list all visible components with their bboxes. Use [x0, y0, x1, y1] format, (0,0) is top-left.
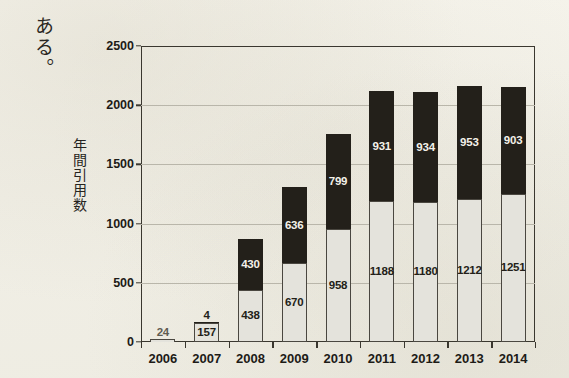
bar-value-label: 934: [416, 142, 435, 154]
bar-value-label: 953: [460, 137, 479, 149]
bar-column: 24: [150, 339, 175, 342]
x-tick-mark: [185, 342, 186, 348]
bar-segment-upper: 934: [413, 92, 438, 203]
bar-chart: 05001000150020002500 2441574304386366707…: [141, 46, 535, 342]
bar-segment-lower: 1251: [501, 194, 526, 342]
bar-value-label: 799: [329, 176, 348, 188]
x-tick-label: 2008: [236, 351, 265, 366]
bar-column: 4157: [194, 322, 219, 342]
x-tick-mark: [404, 342, 405, 348]
x-tick-label: 2011: [368, 351, 396, 366]
y-tick-label: 1000: [106, 217, 134, 231]
x-tick-label: 2006: [148, 351, 177, 366]
bar-value-label: 636: [285, 220, 304, 232]
x-tick-mark: [316, 342, 317, 348]
bar-value-label: 958: [329, 280, 348, 292]
x-tick-label: 2012: [411, 351, 440, 366]
bar-value-label: 903: [504, 135, 523, 147]
bar-value-label: 157: [197, 327, 216, 339]
body-text: ある。: [26, 16, 54, 79]
bar-value-label: 1188: [370, 266, 394, 278]
bar-value-label: 430: [241, 259, 260, 271]
bar-segment-upper: 799: [326, 134, 351, 229]
bar-value-label: 931: [372, 141, 391, 153]
bar-segment-lower: 24: [150, 339, 175, 342]
bar-value-label: 1180: [413, 266, 437, 278]
bar-segment-upper: 430: [238, 239, 263, 290]
y-tick-label: 0: [127, 335, 134, 349]
bar-value-label: 438: [241, 310, 260, 322]
x-tick-mark: [141, 342, 142, 348]
bar-value-label: 1212: [457, 265, 482, 277]
y-axis-title: 年間引用数: [66, 138, 88, 213]
bar-column: 636670: [282, 187, 307, 342]
bar-series: 2441574304386366707999589311188934118095…: [141, 46, 535, 342]
bar-segment-lower: 1212: [457, 199, 482, 343]
bar-value-label: 670: [285, 297, 304, 309]
bar-segment-lower: 670: [282, 263, 307, 342]
bar-column: 9341180: [413, 92, 438, 342]
bar-segment-lower: 1180: [413, 202, 438, 342]
x-tick-mark: [491, 342, 492, 348]
bar-segment-upper: 903: [501, 87, 526, 194]
x-tick-label: 2009: [280, 351, 309, 366]
x-tick-label: 2014: [499, 351, 528, 366]
bar-value-label: 1251: [501, 262, 526, 274]
bar-segment-lower: 958: [326, 229, 351, 342]
x-tick-label: 2013: [455, 351, 484, 366]
bar-value-label: 4: [204, 310, 210, 322]
bar-column: 9031251: [501, 87, 526, 342]
y-tick-label: 2000: [106, 98, 134, 112]
y-tick-label: 1500: [106, 157, 134, 171]
bar-column: 9311188: [369, 91, 394, 342]
y-tick-label: 500: [113, 276, 134, 290]
bar-segment-lower: 1188: [369, 201, 394, 342]
bar-segment-upper: 953: [457, 86, 482, 199]
x-tick-label: 2010: [324, 351, 353, 366]
x-tick-mark: [229, 342, 230, 348]
x-tick-mark: [535, 342, 536, 348]
bar-segment-upper: 931: [369, 91, 394, 201]
x-tick-label: 2007: [192, 351, 221, 366]
x-tick-mark: [447, 342, 448, 348]
bar-segment-upper: 636: [282, 187, 307, 262]
bar-value-label: 24: [157, 327, 169, 339]
bar-column: 430438: [238, 239, 263, 342]
bar-segment-lower: 438: [238, 290, 263, 342]
bar-column: 9531212: [457, 86, 482, 342]
x-tick-mark: [272, 342, 273, 348]
bar-column: 799958: [326, 134, 351, 342]
y-tick-label: 2500: [106, 39, 134, 53]
x-tick-mark: [360, 342, 361, 348]
bar-segment-lower: 157: [194, 323, 219, 342]
